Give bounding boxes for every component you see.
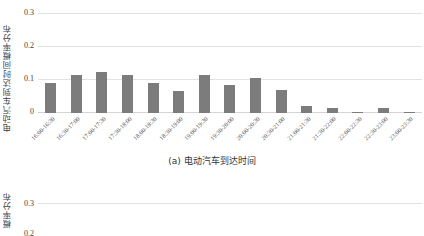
- y-tick-0-1: 0.1: [10, 74, 34, 83]
- chart-b-y-tick-0-2: 0.2: [8, 229, 34, 236]
- bar-cell: [371, 13, 397, 113]
- bar: [45, 83, 56, 113]
- chart-b-gridline-0-3: [38, 203, 422, 204]
- bar: [96, 72, 107, 113]
- y-tick-0-3: 0.3: [10, 8, 34, 17]
- bar-cell: [345, 13, 371, 113]
- bar: [276, 90, 287, 113]
- bar-cell: [38, 13, 64, 113]
- x-tick-label: 16:00-16:30: [29, 115, 55, 141]
- bar-cell: [140, 13, 166, 113]
- chart-b-y-tick-0-3: 0.3: [8, 199, 34, 208]
- bar: [71, 75, 82, 113]
- bar-cell: [192, 13, 218, 113]
- figure-container: 电动汽车到达时间概率分布 0.3 0.2 0.1 0: [0, 0, 424, 236]
- bar: [199, 75, 210, 113]
- chart-a-plot-area: [38, 13, 422, 113]
- bar: [148, 83, 159, 113]
- bar-cell: [166, 13, 192, 113]
- bar-cell: [89, 13, 115, 113]
- bar-cell: [320, 13, 346, 113]
- bar: [224, 85, 235, 113]
- y-tick-0: 0: [10, 107, 34, 116]
- bar-cell: [115, 13, 141, 113]
- figure-caption-a: (a) 电动汽车到达时间: [0, 154, 424, 167]
- chart-a-bar-series: [38, 13, 422, 113]
- chart-b: 概率分布 0.3 0.2: [0, 184, 424, 236]
- bar: [301, 106, 312, 113]
- bar: [250, 78, 261, 113]
- bar: [122, 75, 133, 113]
- chart-a: 电动汽车到达时间概率分布 0.3 0.2 0.1 0: [0, 0, 424, 168]
- bar-cell: [217, 13, 243, 113]
- y-tick-0-2: 0.2: [10, 41, 34, 50]
- bar-cell: [294, 13, 320, 113]
- chart-a-y-tick-labels: 0.3 0.2 0.1 0: [8, 13, 34, 113]
- bar-cell: [268, 13, 294, 113]
- bar: [173, 91, 184, 113]
- bar-cell: [243, 13, 269, 113]
- bar-cell: [396, 13, 422, 113]
- bar-cell: [64, 13, 90, 113]
